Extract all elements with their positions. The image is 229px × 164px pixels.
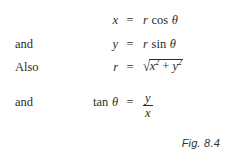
equation-lhs-4: tan θ: [93, 73, 118, 117]
equals-sign-4: =: [118, 73, 142, 117]
symbol-theta-2: θ: [170, 37, 176, 51]
radicand: x2 + y2: [149, 59, 183, 73]
radicand-term-y-exponent: 2: [178, 58, 182, 67]
equation-lead-label-3: Also: [0, 50, 93, 73]
equation-lead-label-2: and: [0, 27, 93, 51]
equation-lead-label-1: [0, 14, 93, 27]
variable-x: x: [112, 13, 118, 27]
equation-row-x: x = r cos θ: [0, 14, 183, 27]
fraction-y-over-x: y x: [143, 92, 153, 120]
symbol-theta-1: θ: [172, 13, 178, 27]
equation-rhs-3: √x2 + y2: [142, 50, 183, 73]
equation-rhs-4: y x: [142, 73, 183, 117]
equation-lhs-1: x: [93, 14, 118, 27]
variable-r-3: r: [113, 60, 118, 74]
function-tan: tan: [93, 95, 108, 109]
equals-sign-2: =: [118, 27, 142, 51]
equation-lhs-2: y: [93, 27, 118, 51]
equation-row-y: and y = r sin θ: [0, 27, 183, 51]
equals-sign-1: =: [118, 14, 142, 27]
function-sin: sin: [152, 37, 167, 51]
equals-sign-3: =: [118, 50, 142, 73]
equation-lhs-3: r: [93, 50, 118, 73]
fraction-numerator: y: [143, 92, 153, 105]
fraction-denominator: x: [143, 106, 153, 119]
radicand-term-x-exponent: 2: [155, 58, 159, 67]
equation-rhs-1: r cos θ: [142, 14, 183, 27]
variable-y: y: [112, 37, 118, 51]
plus-sign: +: [162, 59, 169, 73]
equation-row-tan: and tan θ = y x: [0, 73, 183, 117]
square-root-expression: √x2 + y2: [143, 59, 183, 73]
equation-row-r: Also r = √x2 + y2: [0, 50, 183, 73]
equation-rhs-2: r sin θ: [142, 27, 183, 51]
figure-polar-conversion-formulas: x = r cos θ and y = r sin θ Also r =: [0, 0, 229, 164]
symbol-theta-3: θ: [112, 95, 118, 109]
equation-lead-label-4: and: [0, 73, 93, 117]
function-cos: cos: [152, 13, 169, 27]
figure-caption: Fig. 8.4: [182, 137, 220, 149]
equation-group: x = r cos θ and y = r sin θ Also r =: [0, 14, 229, 117]
